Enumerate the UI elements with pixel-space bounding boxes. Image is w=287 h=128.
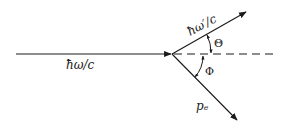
phi-angle-arc (195, 56, 203, 77)
scattered-photon-label: ħω′/c (185, 12, 219, 39)
compton-diagram: ħω/c ħω′/c Θ Φ pₑ (0, 0, 287, 128)
incoming-photon-label: ħω/c (66, 58, 95, 72)
theta-label: Θ (214, 37, 223, 50)
theta-angle-arc (207, 35, 211, 53)
phi-label: Φ (205, 65, 214, 78)
electron-momentum-label: pₑ (196, 99, 209, 113)
